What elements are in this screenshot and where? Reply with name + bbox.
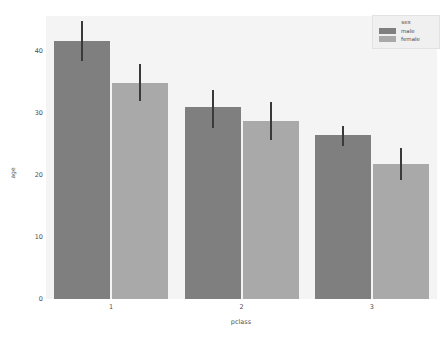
y-tick-label-30: 30 bbox=[0, 109, 43, 117]
y-axis-ticks: 010203040 bbox=[0, 0, 446, 345]
legend-label-female: female bbox=[401, 36, 420, 42]
y-tick-label-0: 0 bbox=[0, 295, 43, 303]
legend-swatch-male bbox=[379, 28, 396, 34]
y-tick-label-20: 20 bbox=[0, 171, 43, 179]
bar-chart-figure: age 010203040 pclass sex male female 123 bbox=[0, 0, 447, 345]
x-tick-label-3: 3 bbox=[370, 303, 374, 311]
legend-title: sex bbox=[377, 19, 435, 25]
x-tick-label-2: 2 bbox=[239, 303, 243, 311]
x-axis-label: pclass bbox=[231, 318, 251, 326]
y-tick-label-40: 40 bbox=[0, 47, 43, 55]
y-tick-label-10: 10 bbox=[0, 233, 43, 241]
legend-item-female[interactable]: female bbox=[377, 36, 435, 42]
legend: sex male female bbox=[372, 15, 440, 49]
x-tick-label-1: 1 bbox=[109, 303, 113, 311]
legend-item-male[interactable]: male bbox=[377, 28, 435, 34]
legend-label-male: male bbox=[401, 28, 415, 34]
legend-swatch-female bbox=[379, 36, 396, 42]
